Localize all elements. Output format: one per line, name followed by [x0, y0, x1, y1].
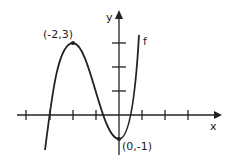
x-axis-label: x	[210, 121, 217, 132]
y-axis-arrow-icon	[115, 10, 123, 19]
function-curve-f	[45, 35, 139, 150]
x-axis-arrow-icon	[214, 111, 222, 119]
max-point-label: (-2,3)	[43, 29, 73, 40]
function-label: f	[143, 36, 147, 47]
y-axis-label: y	[106, 12, 113, 23]
min-point-label: (0,-1)	[122, 141, 152, 152]
graph	[0, 0, 232, 167]
min-point	[117, 137, 121, 141]
max-point	[71, 41, 75, 45]
